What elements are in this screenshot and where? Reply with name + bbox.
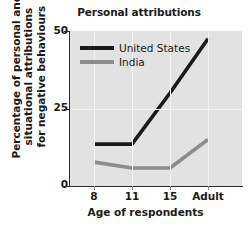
y-axis-line	[69, 31, 70, 187]
y-axis-title-line-1: Percentage of personal and	[10, 0, 22, 167]
y-axis-tick-labels: 50 25 0	[46, 0, 68, 228]
legend-item-united-states: United States	[80, 41, 190, 55]
y-axis-title: Percentage of personal and situational a…	[10, 0, 47, 167]
legend-item-india: India	[80, 55, 190, 69]
legend-label-united-states: United States	[119, 42, 190, 54]
x-tick-label-15: 15	[163, 190, 178, 202]
y-tick-label-0: 0	[48, 178, 68, 190]
chart-title: Personal attributions	[70, 6, 208, 18]
x-tick-label-adult: Adult	[192, 190, 224, 202]
x-tick-label-11: 11	[125, 190, 140, 202]
chart-legend: United States India	[80, 41, 190, 69]
y-tick-label-25: 25	[48, 101, 68, 113]
legend-label-india: India	[119, 56, 145, 68]
legend-swatch-united-states	[80, 46, 114, 50]
chart-figure: Personal attributions Percentage of pers…	[0, 0, 248, 228]
x-axis-title: Age of respondents	[58, 206, 233, 218]
y-tick-label-50: 50	[48, 24, 68, 36]
y-axis-title-line-2: situational attributions	[23, 0, 35, 167]
gridline-horizontal-25	[70, 109, 242, 110]
y-axis-title-container: Percentage of personal and situational a…	[0, 10, 46, 190]
legend-swatch-india	[80, 60, 114, 64]
x-tick-label-8: 8	[90, 190, 97, 202]
